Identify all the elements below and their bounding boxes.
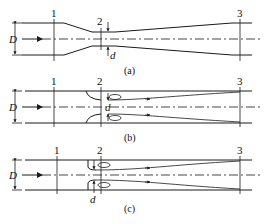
jet-upper-boundary	[96, 161, 240, 170]
panel-c-orifice: D 1 2 d 3 (c)	[8, 144, 262, 215]
section-1-label: 1	[51, 75, 57, 87]
eddy-lower-icon	[109, 116, 121, 121]
orifice-upper-plate	[88, 160, 96, 170]
nozzle-upper-contour	[86, 91, 101, 100]
nozzle-lower-contour	[86, 114, 101, 123]
orifice-lower-plate	[88, 180, 96, 190]
section-3-label: 3	[237, 7, 243, 19]
section-2-label: 2	[97, 75, 103, 87]
throat-diameter-label: d	[110, 49, 116, 61]
jet-lower-boundary	[108, 114, 240, 122]
panel-a-venturi: D 1 2 d 3 (a)	[8, 7, 262, 77]
section-1-label: 1	[54, 144, 60, 156]
section-1-label: 1	[51, 7, 57, 19]
throat-diameter-label: d	[90, 193, 96, 205]
pipe-diameter-label: D	[8, 101, 17, 113]
section-2-label: 2	[97, 15, 103, 27]
jet-lower-boundary	[96, 180, 240, 189]
section-2-label: 2	[97, 144, 103, 156]
eddy-upper-icon	[109, 95, 121, 100]
eddy-lower-icon	[98, 183, 110, 188]
panel-b-nozzle: D 1 2 d 3 (b)	[8, 75, 262, 144]
panel-caption: (c)	[124, 203, 135, 215]
venturi-lower-wall	[22, 46, 252, 55]
panel-caption: (a)	[124, 65, 135, 77]
section-3-label: 3	[237, 75, 243, 87]
section-3-label: 3	[237, 144, 243, 156]
pipe-diameter-label: D	[8, 33, 17, 45]
jet-upper-boundary	[108, 92, 240, 100]
panel-caption: (b)	[124, 132, 136, 144]
flow-meter-figure: D 1 2 d 3 (a) D 1	[0, 0, 268, 224]
throat-diameter-label: d	[105, 101, 111, 113]
eddy-upper-icon	[98, 163, 110, 168]
venturi-upper-wall	[22, 23, 252, 32]
pipe-diameter-label: D	[8, 169, 17, 181]
